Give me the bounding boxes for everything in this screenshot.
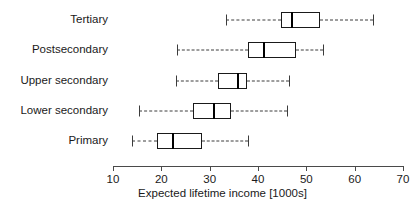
whisker-low-cap <box>226 15 227 26</box>
whisker-low-cap <box>139 106 140 117</box>
whisker-low-line <box>176 81 219 82</box>
x-tick-label-60: 60 <box>348 174 361 186</box>
whisker-low-line <box>177 50 248 51</box>
x-tick-20 <box>161 166 162 171</box>
whisker-high-line <box>202 141 248 142</box>
x-tick-label-40: 40 <box>252 174 265 186</box>
boxplot-row-postsecondary <box>0 35 417 65</box>
x-axis: 10203040506070 <box>0 166 417 176</box>
x-tick-label-10: 10 <box>107 174 120 186</box>
median-line <box>213 103 215 119</box>
whisker-high-cap <box>287 106 288 117</box>
x-axis-title: Expected lifetime income [1000s] <box>0 188 417 200</box>
whisker-high-line <box>320 20 373 21</box>
x-tick-30 <box>210 166 211 171</box>
x-tick-label-50: 50 <box>300 174 313 186</box>
plot-area <box>0 0 417 160</box>
whisker-high-cap <box>323 45 324 56</box>
x-tick-40 <box>258 166 259 171</box>
whisker-low-line <box>226 20 282 21</box>
x-tick-70 <box>403 166 404 171</box>
boxplot-chart: TertiaryPostsecondaryUpper secondaryLowe… <box>0 0 417 210</box>
whisker-high-line <box>231 111 288 112</box>
whisker-high-cap <box>248 136 249 147</box>
whisker-high-cap <box>373 15 374 26</box>
x-tick-60 <box>355 166 356 171</box>
x-tick-label-20: 20 <box>155 174 168 186</box>
box-iqr <box>218 73 247 89</box>
x-axis-title-text: Expected lifetime income [1000s] <box>138 188 307 200</box>
whisker-high-cap <box>289 76 290 87</box>
whisker-high-line <box>296 50 323 51</box>
x-tick-10 <box>113 166 114 171</box>
boxplot-row-upper-secondary <box>0 66 417 96</box>
median-line <box>237 73 239 89</box>
whisker-low-line <box>139 111 193 112</box>
boxplot-row-lower-secondary <box>0 96 417 126</box>
x-tick-label-30: 30 <box>203 174 216 186</box>
median-line <box>263 42 265 58</box>
whisker-low-cap <box>177 45 178 56</box>
whisker-low-cap <box>176 76 177 87</box>
whisker-high-line <box>247 81 289 82</box>
whisker-low-cap <box>132 136 133 147</box>
box-iqr <box>157 133 202 149</box>
box-iqr <box>281 12 320 28</box>
x-tick-50 <box>306 166 307 171</box>
boxplot-row-primary <box>0 126 417 156</box>
whisker-low-line <box>132 141 158 142</box>
median-line <box>172 133 174 149</box>
median-line <box>291 12 293 28</box>
box-iqr <box>248 42 296 58</box>
boxplot-row-tertiary <box>0 5 417 35</box>
x-tick-label-70: 70 <box>397 174 410 186</box>
